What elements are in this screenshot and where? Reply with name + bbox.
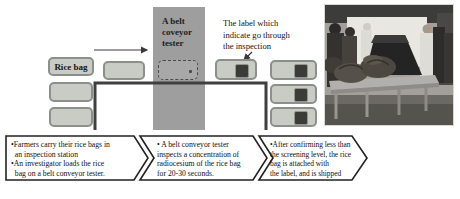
queue-bag-2 (49, 107, 93, 127)
inspection-photo (325, 5, 453, 125)
photo-illustration (325, 5, 453, 125)
rice-bag-label: Rice bag (54, 62, 87, 72)
step-text-3: •After confirming less than the screenin… (270, 140, 366, 178)
queue-bag-1 (49, 82, 93, 102)
belt-bag (103, 61, 145, 80)
step-text-1: •Farmers carry their rice bags in an ins… (11, 140, 143, 178)
inspection-label-square (294, 88, 308, 102)
done-bag-1 (270, 60, 317, 80)
rice-bag: Rice bag (48, 57, 94, 76)
inspection-label-square (235, 64, 249, 78)
inspection-label-square (294, 111, 308, 125)
inspected-bag (215, 59, 257, 80)
diagram-root: A belt coveyor tester Rice bag (0, 0, 460, 199)
inspection-label-square (294, 64, 308, 78)
done-bag-3 (270, 107, 317, 127)
step-text-2: • A belt conveyor tester inspects a conc… (157, 140, 257, 178)
belt-tester-label: A belt coveyor tester (162, 16, 192, 49)
bag-in-tester (158, 60, 198, 80)
done-bag-2 (270, 84, 317, 104)
tester-dot (189, 70, 192, 73)
inspection-label-callout: The label which indicate go through the … (223, 18, 333, 53)
